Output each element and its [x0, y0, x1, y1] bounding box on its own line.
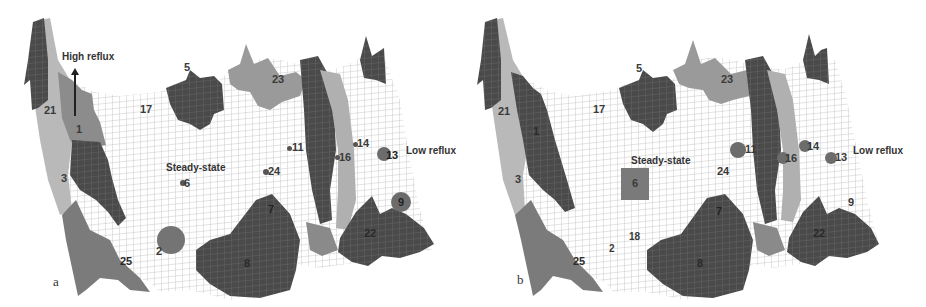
node-label: 8 — [697, 258, 703, 269]
node-label: 16 — [339, 152, 351, 163]
node-label: 6 — [184, 178, 190, 189]
node-label: 13 — [835, 152, 847, 163]
node-label: 24 — [268, 166, 280, 177]
node-label: 7 — [268, 204, 274, 215]
node-label: 25 — [573, 256, 585, 267]
node-label: 25 — [120, 256, 132, 267]
node-label: 1 — [76, 124, 82, 135]
node-label: 5 — [184, 62, 190, 73]
node-label: 22 — [813, 228, 825, 239]
node-label: 17 — [140, 104, 152, 115]
arrow-head-icon — [71, 68, 79, 75]
annotation-low-reflux: Low reflux — [853, 146, 903, 156]
node-label: 1 — [533, 126, 539, 137]
node-label: 17 — [593, 104, 605, 115]
node-label: 11 — [292, 142, 304, 153]
node-label: 24 — [717, 166, 729, 177]
node-label: 23 — [272, 74, 284, 85]
node-label: 14 — [357, 138, 369, 149]
node-label: 5 — [636, 63, 642, 74]
node-label: 9 — [848, 197, 854, 208]
annotation-high-reflux: High reflux — [62, 52, 114, 62]
node-label: 22 — [364, 228, 376, 239]
node-label: 2 — [156, 246, 162, 257]
annotation-steady-state: Steady-state — [631, 156, 690, 166]
node-label: 21 — [44, 105, 56, 116]
node-label: 13 — [386, 150, 398, 161]
node-label: 11 — [745, 144, 757, 155]
node-label: 21 — [498, 106, 510, 117]
node-label: 23 — [721, 74, 733, 85]
node-label: 14 — [807, 141, 819, 152]
node-label: 2 — [609, 244, 615, 254]
annotation-low-reflux: Low reflux — [406, 146, 456, 156]
surface-plot-b: Steady-state Low reflux 21 1 17 5 23 3 6… — [463, 0, 926, 307]
node-label: 7 — [716, 206, 722, 217]
node-label: 16 — [785, 153, 797, 164]
surface-plot-a: High reflux Steady-state Low reflux 21 1… — [0, 0, 463, 307]
node-label: 18 — [629, 232, 640, 242]
node-label: 6 — [632, 178, 638, 189]
marker-node-11 — [730, 142, 746, 158]
node-label: 3 — [61, 173, 67, 184]
node-label: 8 — [244, 258, 250, 269]
annotation-steady-state: Steady-state — [166, 163, 225, 173]
node-label: 3 — [515, 174, 521, 185]
panel-letter-a: a — [53, 274, 59, 290]
arrow-up-icon — [74, 72, 76, 116]
panel-letter-b: b — [517, 272, 524, 288]
node-label: 9 — [398, 197, 404, 208]
